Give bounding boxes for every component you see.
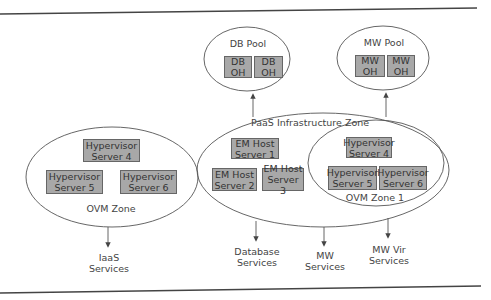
node-line2: Server 6 [383, 178, 423, 189]
zone1-hypervisor-server-5: Hypervisor Server 5 [328, 166, 377, 190]
ovm-zone-title: OVM Zone [86, 203, 135, 214]
em-host-server-1: EM Host Server 1 [231, 138, 279, 159]
iaas-services-label: IaaS Services [89, 252, 129, 274]
node-line2: Server 4 [349, 148, 389, 159]
node-line2: Server 1 [235, 149, 275, 160]
em-host-server-3: EM Host Server 3 [262, 168, 304, 191]
db-oh-node: DB OH [254, 56, 283, 78]
node-line1: MW [361, 55, 379, 66]
mw-oh-node: MW OH [355, 55, 385, 77]
zone1-hypervisor-server-4: Hypervisor Server 4 [346, 137, 392, 158]
node-line2: OH [363, 66, 378, 77]
db-oh-node: DB OH [224, 56, 252, 78]
node-line2: Server 5 [54, 182, 94, 193]
service-line1: MW [305, 250, 345, 261]
service-line2: Services [369, 255, 409, 266]
mw-services-label: MW Services [305, 250, 345, 272]
hypervisor-server-4: Hypervisor Server 4 [83, 139, 140, 162]
database-services-label: Database Services [234, 246, 279, 268]
db-pool-title: DB Pool [230, 38, 267, 49]
service-line2: Services [89, 263, 129, 274]
hypervisor-server-6: Hypervisor Server 6 [120, 170, 177, 194]
bottom-rule [0, 286, 481, 293]
zone1-hypervisor-server-6: Hypervisor Server 6 [379, 166, 427, 190]
node-line1: Hypervisor [377, 167, 428, 178]
service-line1: Database [234, 246, 279, 257]
node-line1: EM Host [264, 163, 303, 174]
node-line1: DB [262, 56, 276, 67]
service-line2: Services [234, 257, 279, 268]
node-line1: EM Host [236, 138, 275, 149]
node-line2: OH [231, 67, 246, 78]
ovm-zone-1-title: OVM Zone 1 [346, 192, 404, 203]
node-line2: OH [394, 66, 409, 77]
service-line2: Services [305, 261, 345, 272]
node-line2: OH [261, 67, 276, 78]
hypervisor-server-5: Hypervisor Server 5 [46, 170, 103, 194]
node-line2: Server 5 [332, 178, 372, 189]
node-line2: Server 4 [91, 151, 131, 162]
mw-vir-services-label: MW Vir Services [369, 244, 409, 266]
mw-oh-node: MW OH [387, 55, 415, 77]
top-rule [0, 8, 477, 14]
paas-zone-title: PaaS Infrastructure Zone [251, 117, 369, 128]
node-line1: Hypervisor [327, 167, 378, 178]
node-line1: DB [231, 56, 245, 67]
node-line2: Server 2 [214, 180, 254, 191]
node-line2: Server 6 [128, 182, 168, 193]
node-line1: Hypervisor [123, 171, 174, 182]
service-line1: IaaS [89, 252, 129, 263]
node-line1: Hypervisor [49, 171, 100, 182]
mw-pool-title: MW Pool [364, 37, 404, 48]
em-host-server-2: EM Host Server 2 [212, 168, 257, 191]
node-line2: Server 3 [263, 174, 303, 196]
node-line1: Hypervisor [343, 137, 394, 148]
service-line1: MW Vir [369, 244, 409, 255]
node-line1: EM Host [215, 169, 254, 180]
node-line1: MW [392, 55, 410, 66]
node-line1: Hypervisor [86, 140, 137, 151]
